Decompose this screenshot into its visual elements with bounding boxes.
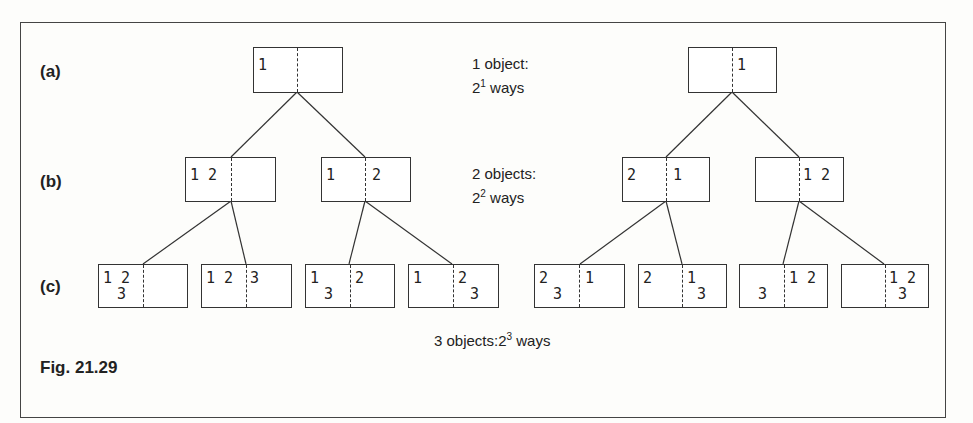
right-bottom-contents: 3 (898, 287, 907, 302)
left-cell-contents: 2 (627, 168, 636, 183)
box-c-6: 2 1 3 (638, 264, 727, 308)
left-cell-contents: 1 (326, 168, 335, 183)
figure-caption: Fig. 21.29 (40, 358, 117, 378)
box-b-4: 1 2 (755, 157, 844, 202)
note-three-objects: 3 objects:23 ways (434, 327, 550, 351)
right-cell-contents: 1 (673, 168, 682, 183)
box-a-right-tree: 1 (688, 47, 777, 93)
note-a-line2: 21 ways (472, 74, 529, 98)
left-cell-contents: 1 2 (190, 168, 217, 183)
row-label-a: (a) (40, 62, 61, 82)
box-a-left-tree: 1 (253, 47, 343, 93)
note-one-object: 1 object: 21 ways (472, 54, 529, 98)
left-bottom-contents: 3 (758, 287, 767, 302)
left-top-contents: 1 (413, 271, 422, 286)
left-top-contents: 2 (539, 271, 548, 286)
note-two-objects: 2 objects: 22 ways (472, 164, 536, 208)
box-c-4: 1 2 3 (408, 264, 499, 308)
box-b-3: 2 1 (622, 157, 710, 202)
box-c-5: 2 3 1 (534, 264, 625, 308)
left-top-contents: 1 (310, 271, 319, 286)
box-c-3: 1 3 2 (305, 264, 395, 308)
right-cell-contents: 1 2 (803, 168, 830, 183)
left-cell-contents: 1 (258, 58, 267, 73)
right-top-contents: 1 2 (889, 271, 916, 286)
left-top-contents: 1 2 (206, 271, 233, 286)
right-cell-contents: 1 (737, 58, 746, 73)
box-c-7: 3 1 2 (739, 264, 828, 308)
right-bottom-contents: 3 (470, 287, 479, 302)
right-top-contents: 1 (687, 271, 696, 286)
right-top-contents: 2 (458, 271, 467, 286)
left-bottom-contents: 3 (117, 287, 126, 302)
note-b-line2: 22 ways (472, 184, 536, 208)
row-label-c: (c) (40, 277, 61, 297)
left-bottom-contents: 3 (553, 287, 562, 302)
box-c-8: 1 2 3 (841, 264, 929, 308)
box-c-2: 1 2 3 (201, 264, 292, 308)
left-top-contents: 2 (643, 271, 652, 286)
right-top-contents: 3 (250, 271, 259, 286)
row-label-b: (b) (40, 172, 62, 192)
left-top-contents: 1 2 (103, 271, 130, 286)
box-c-1: 1 2 3 (98, 264, 188, 308)
box-b-1: 1 2 (185, 157, 276, 202)
note-b-line1: 2 objects: (472, 164, 536, 184)
box-b-2: 1 2 (321, 157, 411, 202)
right-top-contents: 1 2 (789, 271, 816, 286)
right-bottom-contents: 3 (697, 287, 706, 302)
right-top-contents: 2 (355, 271, 364, 286)
left-bottom-contents: 3 (324, 287, 333, 302)
right-top-contents: 1 (585, 271, 594, 286)
right-cell-contents: 2 (372, 168, 381, 183)
note-a-line1: 1 object: (472, 54, 529, 74)
